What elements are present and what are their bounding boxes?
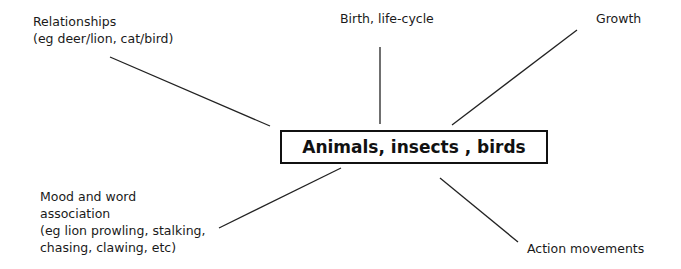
branch-mood-line-1: Mood and word <box>40 188 205 205</box>
branch-relationships: Relationships (eg deer/lion, cat/bird) <box>33 13 173 47</box>
connector-growth <box>452 30 577 125</box>
branch-relationships-line-1: Relationships <box>33 13 173 30</box>
branch-mood: Mood and word association (eg lion prowl… <box>40 188 205 256</box>
connector-mood <box>219 168 341 228</box>
branch-mood-line-3: (eg lion prowling, stalking, <box>40 222 205 239</box>
branch-action: Action movements <box>527 240 644 257</box>
branch-birth: Birth, life-cycle <box>340 10 434 27</box>
branch-growth: Growth <box>596 10 641 27</box>
central-topic-box: Animals, insects , birds <box>280 130 548 164</box>
central-topic-label: Animals, insects , birds <box>302 137 525 157</box>
branch-mood-line-2: association <box>40 205 205 222</box>
branch-action-line-1: Action movements <box>527 240 644 257</box>
connector-action <box>440 178 518 242</box>
connector-relationships <box>110 57 270 126</box>
branch-birth-line-1: Birth, life-cycle <box>340 10 434 27</box>
branch-relationships-line-2: (eg deer/lion, cat/bird) <box>33 30 173 47</box>
branch-growth-line-1: Growth <box>596 10 641 27</box>
branch-mood-line-4: chasing, clawing, etc) <box>40 239 205 256</box>
